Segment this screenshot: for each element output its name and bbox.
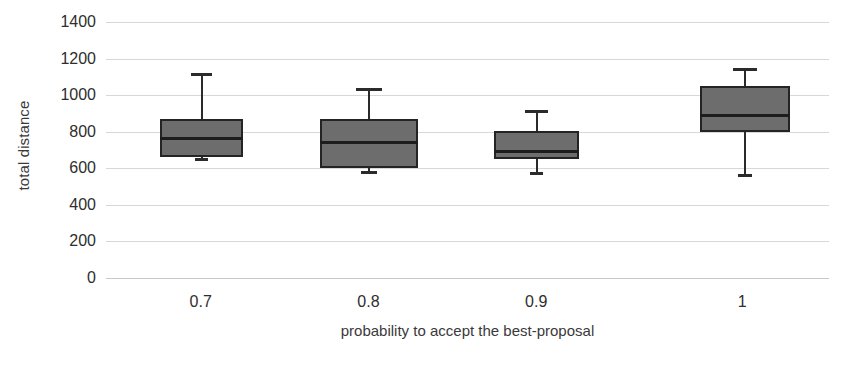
- median-line: [700, 114, 790, 117]
- lower-whisker-cap: [738, 174, 752, 177]
- y-axis-tick-label: 0: [34, 269, 96, 287]
- box-iqr-rect: [700, 86, 790, 132]
- upper-whisker-cap: [733, 68, 756, 71]
- x-axis-title: probability to accept the best-proposal: [106, 322, 829, 339]
- median-line: [160, 137, 243, 140]
- box-plot-group: [160, 0, 243, 290]
- box-plot-group: [494, 0, 579, 290]
- y-axis-tick-labels: 1400120010008006004002000: [34, 0, 96, 300]
- y-axis-tick-label: 200: [34, 232, 96, 250]
- y-axis-tick-label: 1000: [34, 86, 96, 104]
- x-axis-tick-label: 1: [738, 293, 747, 311]
- x-axis-tick-label: 0.9: [525, 293, 547, 311]
- box-plot-group: [700, 0, 790, 290]
- box-plot-figure: total distance 1400120010008006004002000…: [0, 0, 847, 367]
- y-axis-title-text: total distance: [16, 100, 33, 190]
- median-line: [494, 150, 579, 153]
- lower-whisker-line: [536, 159, 538, 172]
- upper-whisker-line: [536, 110, 538, 131]
- upper-whisker-line: [201, 73, 203, 119]
- y-axis-tick-label: 1400: [34, 13, 96, 31]
- upper-whisker-cap: [191, 73, 213, 76]
- upper-whisker-line: [368, 88, 370, 119]
- x-axis-tick-label: 0.8: [357, 293, 379, 311]
- lower-whisker-cap: [195, 158, 208, 161]
- y-axis-tick-label: 800: [34, 123, 96, 141]
- y-axis-tick-label: 600: [34, 159, 96, 177]
- box-iqr-rect: [494, 131, 579, 159]
- lower-whisker-cap: [361, 171, 377, 174]
- y-axis-tick-label: 1200: [34, 50, 96, 68]
- lower-whisker-cap: [530, 172, 544, 175]
- plot-area: [106, 0, 829, 290]
- upper-whisker-cap: [356, 88, 381, 91]
- y-axis-tick-label: 400: [34, 196, 96, 214]
- median-line: [320, 141, 418, 144]
- upper-whisker-cap: [525, 110, 547, 113]
- x-axis-tick-label: 0.7: [190, 293, 212, 311]
- lower-whisker-line: [744, 132, 746, 174]
- box-plot-group: [320, 0, 418, 290]
- x-axis-tick-labels: 0.70.80.91: [106, 293, 829, 319]
